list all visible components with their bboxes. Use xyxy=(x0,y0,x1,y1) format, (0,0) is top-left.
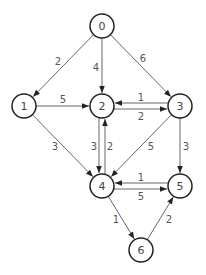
node-label: 3 xyxy=(177,100,184,113)
node-2: 2 xyxy=(90,94,114,118)
edge-arrow xyxy=(32,115,93,177)
node-label: 2 xyxy=(99,100,106,113)
node-4: 4 xyxy=(90,174,114,198)
edge-weight-label: 1 xyxy=(113,214,119,225)
edge-weight-label: 4 xyxy=(93,62,99,73)
edge-arrow xyxy=(110,35,171,97)
edge-weight-label: 1 xyxy=(138,172,144,183)
edge-weight-label: 6 xyxy=(140,53,146,64)
node-0: 0 xyxy=(90,14,114,38)
edge-0-3 xyxy=(110,35,171,97)
node-label: 6 xyxy=(138,244,145,257)
node-3: 3 xyxy=(168,94,192,118)
edge-weight-label: 2 xyxy=(55,56,61,67)
edge-weight-label: 3 xyxy=(183,141,189,152)
edge-weight-label: 3 xyxy=(91,141,97,152)
node-label: 5 xyxy=(177,180,184,193)
edge-1-4 xyxy=(32,115,93,177)
node-1: 1 xyxy=(12,94,36,118)
node-label: 4 xyxy=(99,180,106,193)
edge-weight-label: 5 xyxy=(148,141,154,152)
node-label: 1 xyxy=(21,100,28,113)
edge-0-1 xyxy=(33,35,94,97)
node-label: 0 xyxy=(99,20,106,33)
node-5: 5 xyxy=(168,174,192,198)
edge-weight-label: 2 xyxy=(138,111,144,122)
edge-labels-layer: 246512332531512 xyxy=(52,53,189,225)
edge-weight-label: 5 xyxy=(138,191,144,202)
edge-weight-label: 3 xyxy=(52,141,58,152)
edge-arrow xyxy=(111,115,172,177)
edge-weight-label: 2 xyxy=(107,141,113,152)
edge-weight-label: 2 xyxy=(166,214,172,225)
node-6: 6 xyxy=(129,238,153,262)
edge-weight-label: 5 xyxy=(60,94,66,105)
edge-arrow xyxy=(33,35,94,97)
graph-diagram: 246512332531512 0123456 xyxy=(0,0,206,275)
edge-weight-label: 1 xyxy=(138,92,144,103)
edge-3-4 xyxy=(111,115,172,177)
